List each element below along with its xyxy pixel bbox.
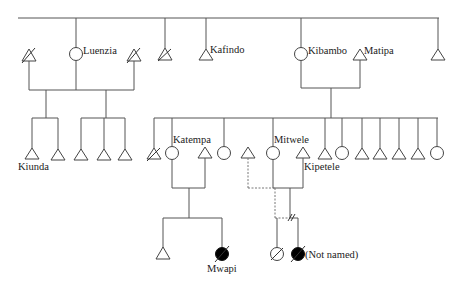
male-triangle-icon [97,149,111,160]
male-triangle-icon [355,148,369,159]
katempa-children: Mwapi [156,246,237,274]
female-circle-icon [166,147,179,160]
person-mwapi: Mwapi [207,246,237,274]
female-circle-icon [431,147,444,160]
person-kiunda: Kiunda [18,148,49,172]
deceased-male-center [158,48,172,61]
male-triangle-icon [198,147,212,158]
person-kibambo: Kibambo [295,45,348,61]
label-kipetele: Kipetele [304,161,340,172]
male-triangle-icon [296,147,310,158]
luenzia-family-lines [29,61,134,150]
male-triangle-icon [25,148,39,159]
label-mitwele: Mitwele [274,134,309,145]
male-triangle-icon [51,149,65,160]
male-triangle-icon [392,148,406,159]
luenzia-children: Kiunda [18,148,132,172]
male-triangle-icon [156,247,170,259]
male-triangle-icon [411,148,425,159]
label-not-named: (Not named) [305,249,359,261]
mitwele-family-lines [248,158,303,248]
deceased-male-right-of-luenzia [127,48,141,63]
female-circle-icon [295,48,308,61]
male-triangle-icon [241,147,255,158]
female-circle-icon [218,147,231,160]
kinship-diagram: Luenzia Kafindo Kibambo Matipa [0,0,461,288]
label-matipa: Matipa [364,45,394,56]
deceased-female-g3 [271,248,284,261]
katempa-family-lines [163,158,222,248]
male-triangle-icon [431,49,445,60]
label-katempa: Katempa [173,134,211,145]
person-luenzia: Luenzia [70,45,118,61]
male-triangle-icon [118,149,132,160]
deceased-male-left [22,48,36,63]
male-triangle-icon [373,148,387,159]
male-triangle-icon [318,148,332,159]
person-not-named: (Not named) [291,246,359,262]
label-kafindo: Kafindo [210,44,244,55]
person-matipa: Matipa [353,45,394,60]
female-circle-icon [336,147,349,160]
female-circle-icon [267,147,280,160]
mitwele-children: (Not named) [271,246,359,262]
male-right [431,49,445,60]
male-triangle-icon [74,149,88,160]
label-mwapi: Mwapi [207,263,237,274]
female-circle-icon [70,48,83,61]
generation-1: Luenzia Kafindo Kibambo Matipa [22,44,445,63]
label-kiunda: Kiunda [18,161,49,172]
deceased-male-g2 [147,148,161,161]
label-kibambo: Kibambo [308,45,347,56]
label-luenzia: Luenzia [83,45,117,56]
